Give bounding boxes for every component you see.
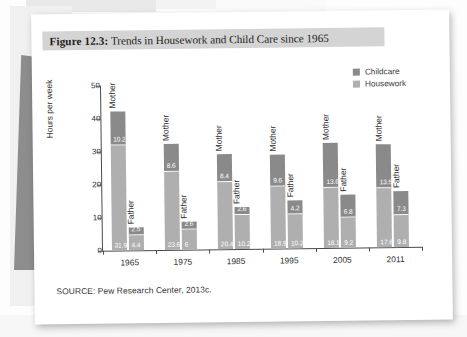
bar-value-label: 2.6 (184, 220, 193, 227)
x-axis-tick-mark (316, 248, 317, 252)
bar-group: Mother8.420.4Father2.610.2 (207, 84, 262, 250)
bar-value-label: 9.6 (273, 176, 282, 183)
bar-value-label: 17.8 (380, 238, 393, 245)
bar-group: Mother13.517.8Father7.39.8 (367, 82, 422, 248)
bar-segment-childcare[interactable]: 13.6 (323, 143, 339, 188)
bar-value-label: 6 (185, 241, 189, 248)
bar-segment-housework[interactable]: 9.8 (394, 215, 409, 248)
y-axis-tick-label: 30 (69, 152, 101, 161)
y-axis-tick-label: 20 (69, 185, 101, 194)
bar-segment-housework[interactable]: 18.1 (324, 188, 340, 248)
x-axis-tick-mark (422, 247, 423, 251)
bar-segment-childcare[interactable]: 2.6 (181, 221, 196, 230)
stacked-bar[interactable]: Father6.89.2 (341, 195, 357, 248)
bar-segment-housework[interactable]: 10.2 (234, 215, 249, 249)
bar-segment-housework[interactable]: 17.8 (377, 188, 393, 247)
bar-segment-childcare[interactable]: 6.8 (341, 195, 356, 218)
x-axis-tick-mark (156, 250, 157, 254)
bar-segment-housework[interactable]: 18.9 (270, 186, 286, 249)
y-axis-tick-mark (98, 251, 102, 252)
bar-segment-childcare[interactable]: 8.6 (163, 144, 178, 173)
bar-group: Mother13.618.1Father6.89.2 (314, 82, 369, 248)
y-axis-tick-label: 40 (68, 119, 100, 128)
x-axis-tick-label: 1995 (263, 255, 316, 266)
chart-plot-area: Hours per week 01020304050 Mother10.231.… (68, 82, 422, 266)
bar-segment-housework[interactable]: 23.6 (164, 172, 180, 250)
stacked-bar[interactable]: Father2.66 (181, 221, 196, 250)
y-axis-tick-label: 0 (70, 251, 102, 260)
bar-group: Mother10.231.9Father2.54.4 (101, 85, 156, 251)
bar-segment-housework[interactable]: 10.2 (288, 215, 303, 249)
bar-value-label: 10.2 (291, 239, 304, 246)
figure-page: Figure 12.3: Trends in Housework and Chi… (31, 9, 453, 324)
x-axis-tick-label: 1965 (103, 257, 156, 268)
stacked-bar[interactable]: Mother8.623.6 (163, 144, 179, 250)
bar-value-label: 7.3 (397, 205, 406, 212)
figure-title-text: Trends in Housework and Child Care since… (108, 31, 329, 46)
bar-segment-childcare[interactable]: 13.5 (376, 144, 392, 189)
bar-segment-housework[interactable]: 31.9 (110, 145, 126, 250)
x-axis-tick-mark (209, 249, 210, 253)
y-axis-tick-mark (97, 152, 101, 153)
bar-value-label: 18.9 (274, 239, 287, 246)
x-axis-tick-label: 2011 (369, 254, 422, 265)
x-axis-tick-label: 1985 (209, 256, 262, 267)
bar-segment-childcare[interactable]: 7.3 (394, 191, 409, 215)
bar-value-label: 8.4 (220, 172, 229, 179)
stacked-bar[interactable]: Mother13.618.1 (323, 143, 339, 248)
bar-value-label: 9.8 (397, 238, 406, 245)
legend-label-childcare: Childcare (365, 67, 400, 76)
stacked-bar[interactable]: Mother10.231.9 (110, 112, 127, 251)
source-note: SOURCE: Pew Research Center, 2013c. (56, 284, 211, 296)
stacked-bar[interactable]: Mother9.618.9 (270, 154, 286, 248)
figure-number: Figure 12.3: (49, 34, 108, 47)
bar-value-label: 10.2 (113, 135, 126, 142)
legend-swatch-childcare (353, 69, 360, 76)
y-axis-title: Hours per week (44, 80, 55, 139)
bar-value-label: 4.2 (291, 205, 300, 212)
stacked-bar[interactable]: Father2.54.4 (128, 227, 143, 250)
bar-group: Mother9.618.9Father4.210.2 (260, 83, 315, 249)
bar-value-label: 18.1 (327, 239, 340, 246)
bar-value-label: 2.5 (131, 226, 140, 233)
bar-segment-childcare[interactable]: 8.4 (217, 154, 232, 182)
bar-segment-housework[interactable]: 4.4 (128, 236, 143, 251)
bar-value-label: 8.6 (167, 162, 176, 169)
bar-segment-childcare[interactable]: 2.6 (234, 207, 249, 216)
y-axis-tick-mark (98, 218, 102, 219)
bar-value-label: 9.2 (344, 239, 353, 246)
x-axis-tick-mark (103, 251, 104, 255)
x-axis-tick-mark (263, 249, 264, 253)
stacked-bar[interactable]: Father7.39.8 (394, 191, 410, 248)
legend-item-childcare: Childcare (353, 67, 406, 77)
bar-segment-housework[interactable]: 6 (181, 230, 196, 250)
y-axis-tick-mark (97, 185, 101, 186)
bar-value-label: 4.4 (131, 241, 140, 248)
bar-segment-housework[interactable]: 9.2 (341, 217, 356, 248)
y-axis-tick-mark (96, 86, 100, 87)
stacked-bar[interactable]: Father2.610.2 (234, 207, 250, 249)
y-axis-tick-label: 10 (70, 218, 102, 227)
figure-title-banner: Figure 12.3: Trends in Housework and Chi… (42, 27, 384, 50)
bar-segment-childcare[interactable]: 4.2 (287, 201, 302, 215)
x-axis-tick-label: 2005 (316, 254, 369, 265)
bar-value-label: 2.6 (237, 205, 246, 212)
bar-segment-childcare[interactable]: 9.6 (270, 154, 285, 186)
bar-segment-childcare[interactable]: 10.2 (110, 112, 125, 146)
bar-value-label: 23.6 (168, 241, 181, 248)
stacked-bar[interactable]: Mother13.517.8 (376, 144, 392, 247)
bar-value-label: 31.9 (114, 241, 127, 248)
x-axis-tick-mark (369, 247, 370, 251)
bar-segment-childcare[interactable]: 2.5 (128, 227, 143, 235)
y-axis-tick-mark (96, 119, 100, 120)
bar-value-label: 13.6 (326, 178, 339, 185)
figure-content: Figure 12.3: Trends in Housework and Chi… (31, 9, 453, 324)
stacked-bar[interactable]: Father4.210.2 (287, 201, 303, 249)
y-axis-tick-label: 50 (68, 86, 100, 95)
x-axis-tick-label: 1975 (156, 256, 209, 267)
bar-value-label: 6.8 (344, 207, 353, 214)
background-strip (156, 0, 216, 9)
bar-value-label: 10.2 (238, 240, 251, 247)
bar-value-label: 20.4 (221, 240, 234, 247)
chart-bars: Mother10.231.9Father2.54.4Mother8.623.6F… (101, 82, 422, 251)
